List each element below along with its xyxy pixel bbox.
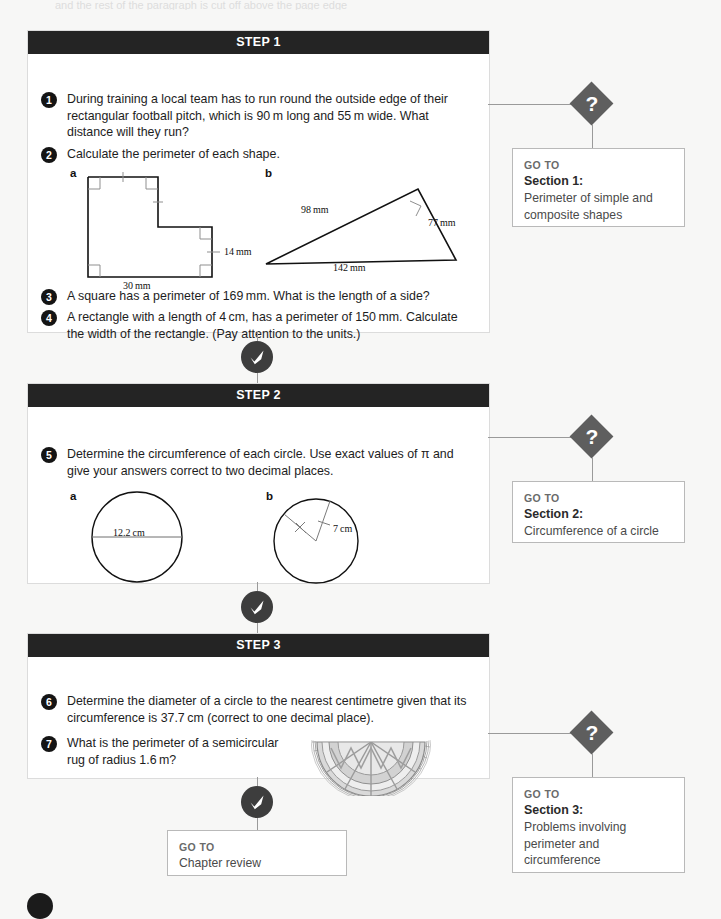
check-circle-3 [241,786,273,818]
step-1-card: STEP 1 1 During training a local team ha… [27,30,490,333]
semicircular-rug-image [311,734,431,796]
step-2-header: STEP 2 [28,384,489,407]
question-1: 1 During training a local team has to ru… [41,91,461,141]
goto-label-2: GO TO [524,491,673,506]
step-3-body: 6 Determine the diameter of a circle to … [28,657,489,777]
cut-off-bullet-bottom [27,893,53,919]
goto-description-3: Problems involving perimeter and circumf… [524,819,673,869]
connector-step2-to-marker2 [488,437,572,438]
goto-section-3: Section 3: [524,802,673,819]
connector-check3-to-chapter-review [257,818,258,830]
figure-2a-label-14mm: 14 mm [224,246,252,257]
goto-label-4: GO TO [179,840,335,855]
question-7-text: What is the perimeter of a semicircular … [67,735,281,768]
question-3: 3 A square has a perimeter of 169 mm. Wh… [41,288,471,305]
connector-check2-to-step3 [257,623,258,633]
figure-5b-circle-with-radius [268,495,378,587]
check-marker-1 [241,341,273,373]
connector-step1-to-check1 [257,331,258,341]
figure-5a-label-diameter: 12.2 cm [113,527,145,538]
question-mark-icon-2: ? [570,415,614,459]
goto-description-2: Circumference of a circle [524,523,673,540]
figure-2b-label-77mm: 77 mm [428,217,456,228]
goto-section-1: Section 1: [524,173,673,190]
step-3-header: STEP 3 [28,634,489,657]
question-4-text: A rectangle with a length of 4 cm, has a… [67,309,471,342]
check-mark-icon-2 [247,597,267,617]
question-7-number: 7 [41,736,57,752]
connector-marker2-to-goto2 [592,457,593,481]
connector-check1-to-step2 [257,373,258,383]
question-mark-icon-1: ? [570,82,614,126]
check-circle-1 [241,341,273,373]
step-2-card: STEP 2 5 Determine the circumference of … [27,383,490,584]
check-circle-2 [241,591,273,623]
figure-2b-label-142mm: 142 mm [333,262,366,273]
goto-box-chapter-review[interactable]: GO TO Chapter review [167,830,347,876]
step-3-card: STEP 3 6 Determine the diameter of a cir… [27,633,490,779]
goto-description-1: Perimeter of simple and composite shapes [524,190,673,223]
connector-marker1-to-goto1 [592,124,593,148]
question-marker-1: ? [570,82,614,126]
check-marker-3 [241,786,273,818]
goto-label-1: GO TO [524,158,673,173]
connector-marker3-to-goto3 [592,753,593,777]
question-6-text: Determine the diameter of a circle to th… [67,693,473,726]
step-1-body: 1 During training a local team has to ru… [28,54,489,331]
connector-step3-to-marker3 [488,733,572,734]
question-3-number: 3 [41,289,57,305]
question-2: 2 Calculate the perimeter of each shape. [41,146,461,163]
question-6: 6 Determine the diameter of a circle to … [41,693,473,726]
question-6-number: 6 [41,694,57,710]
figure-2a-composite-shape [80,169,240,284]
check-mark-icon-1 [247,347,267,367]
question-5: 5 Determine the circumference of each ci… [41,446,471,479]
check-marker-2 [241,591,273,623]
goto-box-section-2[interactable]: GO TO Section 2: Circumference of a circ… [512,481,685,543]
check-mark-icon-3 [247,792,267,812]
goto-label-3: GO TO [524,787,673,802]
question-7: 7 What is the perimeter of a semicircula… [41,735,281,768]
connector-step1-to-marker1 [488,104,572,105]
goto-box-section-1[interactable]: GO TO Section 1: Perimeter of simple and… [512,148,685,227]
question-5-text: Determine the circumference of each circ… [67,446,471,479]
question-3-text: A square has a perimeter of 169 mm. What… [67,288,430,305]
question-1-text: During training a local team has to run … [67,91,461,141]
question-marker-2: ? [570,415,614,459]
question-marker-3: ? [570,711,614,755]
figure-2b-label-98mm: 98 mm [301,204,329,215]
cut-off-text-top: and the rest of the paragraph is cut off… [55,0,485,10]
question-2-number: 2 [41,147,57,163]
question-4: 4 A rectangle with a length of 4 cm, has… [41,309,471,342]
step-2-body: 5 Determine the circumference of each ci… [28,407,489,582]
connector-step3-to-check3 [257,777,258,786]
figure-2a-letter: a [70,167,76,179]
question-5-number: 5 [41,447,57,463]
question-2-text: Calculate the perimeter of each shape. [67,146,280,163]
goto-description-4: Chapter review [179,855,335,872]
figure-5b-label-radius: 7 cm [333,523,352,534]
question-4-number: 4 [41,310,57,326]
question-mark-icon-3: ? [570,711,614,755]
goto-section-2: Section 2: [524,506,673,523]
goto-box-section-3[interactable]: GO TO Section 3: Problems involving peri… [512,777,685,873]
question-1-number: 1 [41,92,57,108]
step-1-header: STEP 1 [28,31,489,54]
connector-step2-to-check2 [257,582,258,591]
